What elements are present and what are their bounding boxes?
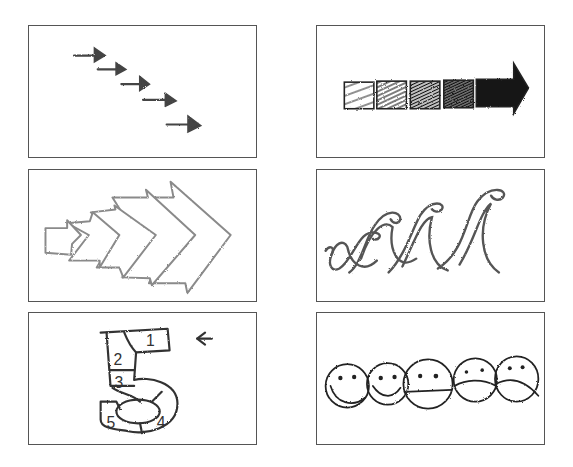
arrows-icon	[29, 26, 256, 157]
waves-icon	[317, 170, 544, 301]
panel-staggered-arrows: Five small hand-drawn arrows descending …	[28, 25, 257, 158]
panel-growing-waves: Four crayon wave curls increasing in hei…	[316, 169, 545, 302]
segment-label-3: 3	[114, 374, 123, 391]
segment-label-1: 1	[146, 332, 155, 349]
panel-mood-faces: Five faces transitioning from happy to s…	[316, 312, 545, 445]
segment-label-4: 4	[157, 414, 166, 431]
mood-faces-icon	[317, 313, 544, 444]
panel-gradient-squares-arrow: Row of five hatched squares growing dark…	[316, 25, 545, 158]
panel-growing-chevron-arrows: Overlapping chevron arrows increasing in…	[28, 169, 257, 302]
progress-arrow-icon	[317, 26, 544, 157]
segment-label-2: 2	[113, 351, 122, 368]
numbered-five-icon: 1 2 3 4 5	[29, 313, 256, 444]
panel-numbered-five-path: Digit 5 divided into numbered segments w…	[28, 312, 257, 445]
segment-label-5: 5	[107, 414, 116, 431]
chevron-arrows-icon	[29, 170, 256, 301]
